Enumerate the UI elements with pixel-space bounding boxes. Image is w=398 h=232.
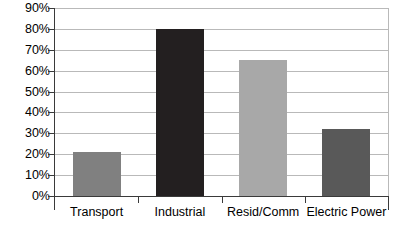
gridline-50pct bbox=[55, 92, 388, 93]
gridline-60pct bbox=[55, 71, 388, 72]
x-axis-category-label: Electric Power bbox=[305, 206, 388, 220]
bar-chart: 0%10%20%30%40%50%60%70%80%90% TransportI… bbox=[0, 0, 398, 232]
gridline-90pct bbox=[55, 8, 388, 9]
y-axis-tick-label: 50% bbox=[0, 85, 50, 98]
plot-right-edge bbox=[388, 8, 389, 197]
y-axis-tick-label: 0% bbox=[0, 190, 50, 203]
x-axis-tick-mark bbox=[138, 196, 139, 203]
y-axis-tick-label: 10% bbox=[0, 169, 50, 182]
x-axis-category-label: Resid/Comm bbox=[222, 206, 305, 220]
x-axis-tick-mark bbox=[222, 196, 223, 203]
y-axis-tick-label: 30% bbox=[0, 127, 50, 140]
gridline-70pct bbox=[55, 50, 388, 51]
bar-industrial[interactable] bbox=[156, 29, 204, 196]
y-axis-tick-mark bbox=[48, 92, 54, 93]
x-axis-category-label: Industrial bbox=[138, 206, 221, 220]
y-axis-tick-mark bbox=[48, 50, 54, 51]
y-axis-tick-label: 90% bbox=[0, 2, 50, 15]
y-axis-tick-mark bbox=[48, 8, 54, 9]
y-axis-tick-label: 60% bbox=[0, 64, 50, 77]
bar-electric-power[interactable] bbox=[322, 129, 370, 196]
x-axis-category-label: Transport bbox=[55, 206, 138, 220]
x-axis-tick-mark bbox=[305, 196, 306, 203]
x-axis-right-cap bbox=[388, 196, 389, 210]
y-axis-tick-label: 20% bbox=[0, 148, 50, 161]
y-axis-tick-mark bbox=[48, 71, 54, 72]
plot-area bbox=[55, 8, 388, 196]
bar-transport[interactable] bbox=[73, 152, 121, 196]
y-axis-tick-mark bbox=[48, 29, 54, 30]
y-axis-tick-label: 70% bbox=[0, 44, 50, 57]
gridline-80pct bbox=[55, 29, 388, 30]
y-axis-tick-label: 80% bbox=[0, 23, 50, 36]
y-axis-tick-mark bbox=[48, 133, 54, 134]
y-axis-tick-mark bbox=[48, 196, 54, 197]
gridline-40pct bbox=[55, 112, 388, 113]
y-axis-tick-labels: 0%10%20%30%40%50%60%70%80%90% bbox=[0, 0, 50, 196]
y-axis-tick-mark bbox=[48, 112, 54, 113]
y-axis-tick-mark bbox=[48, 175, 54, 176]
y-axis-tick-mark bbox=[48, 154, 54, 155]
y-axis-tick-label: 40% bbox=[0, 106, 50, 119]
bar-resid-comm[interactable] bbox=[239, 60, 287, 196]
